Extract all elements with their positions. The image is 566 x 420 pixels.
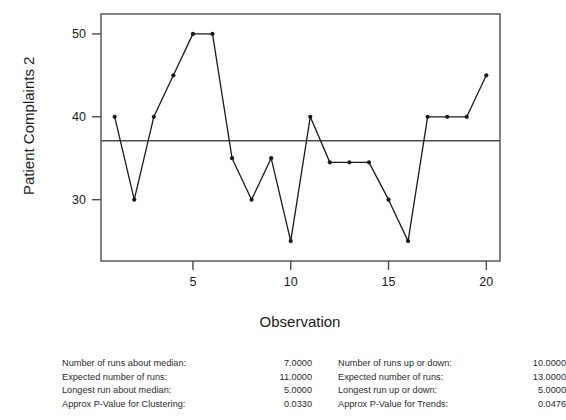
y-tick-label: 40 (72, 110, 86, 124)
data-point (386, 198, 390, 202)
data-point (113, 115, 117, 119)
stats-label: Expected number of runs: (62, 371, 214, 385)
stats-label: Number of runs about median: (62, 357, 214, 371)
data-point (230, 156, 234, 160)
stats-value: 0.0476 (514, 398, 566, 412)
stats-value: 7.0000 (260, 357, 312, 371)
stats-value: 10.0000 (514, 357, 566, 371)
runs-up-or-down-stats: Number of runs up or down: 10.0000 Expec… (338, 357, 566, 411)
stats-row: Expected number of runs: 13.0000 (338, 371, 566, 385)
data-point (465, 115, 469, 119)
y-axis-ticks: 304050 (72, 27, 101, 207)
stats-row: Approx P-Value for Trends: 0.0476 (338, 398, 566, 412)
stats-row: Number of runs up or down: 10.0000 (338, 357, 566, 371)
stats-label: Approx P-Value for Clustering: (62, 398, 214, 412)
data-point (132, 198, 136, 202)
stats-label: Longest run up or down: (338, 384, 490, 398)
data-point (289, 239, 293, 243)
data-point (347, 160, 351, 164)
stats-label: Number of runs up or down: (338, 357, 490, 371)
run-chart-svg: 304050 5101520 Patient Complaints 2 Obse… (0, 0, 566, 350)
stats-value: 11.0000 (260, 371, 312, 385)
y-axis-title: Patient Complaints 2 (20, 57, 37, 195)
data-point (191, 32, 195, 36)
runs-about-median-stats: Number of runs about median: 7.0000 Expe… (62, 357, 312, 411)
y-tick-label: 50 (72, 27, 86, 41)
plot-frame (101, 14, 500, 261)
x-axis-title: Observation (260, 313, 341, 330)
data-point (484, 73, 488, 77)
run-chart-page: 304050 5101520 Patient Complaints 2 Obse… (0, 0, 566, 420)
x-tick-label: 15 (382, 275, 396, 289)
x-tick-label: 5 (189, 275, 196, 289)
data-point (269, 156, 273, 160)
stats-row: Approx P-Value for Clustering: 0.0330 (62, 398, 312, 412)
stats-row: Longest run about median: 5.0000 (62, 384, 312, 398)
stats-row: Expected number of runs: 11.0000 (62, 371, 312, 385)
chart-container: 304050 5101520 Patient Complaints 2 Obse… (0, 0, 566, 350)
data-point (426, 115, 430, 119)
stats-row: Number of runs about median: 7.0000 (62, 357, 312, 371)
data-point (367, 160, 371, 164)
stats-label: Expected number of runs: (338, 371, 490, 385)
data-point (445, 115, 449, 119)
y-tick-label: 30 (72, 193, 86, 207)
x-tick-label: 20 (479, 275, 493, 289)
data-point (328, 160, 332, 164)
stats-row: Longest run up or down: 5.0000 (338, 384, 566, 398)
stats-value: 5.0000 (260, 384, 312, 398)
stats-value: 13.0000 (514, 371, 566, 385)
data-point (171, 73, 175, 77)
data-point-markers (113, 32, 489, 243)
stats-value: 0.0330 (260, 398, 312, 412)
data-point (210, 32, 214, 36)
data-point (308, 115, 312, 119)
data-point (152, 115, 156, 119)
stats-value: 5.0000 (514, 384, 566, 398)
x-tick-label: 10 (284, 275, 298, 289)
data-line (115, 34, 487, 241)
stats-label: Approx P-Value for Trends: (338, 398, 490, 412)
x-axis-ticks: 5101520 (189, 261, 493, 289)
data-point (406, 239, 410, 243)
stats-label: Longest run about median: (62, 384, 214, 398)
data-point (250, 198, 254, 202)
